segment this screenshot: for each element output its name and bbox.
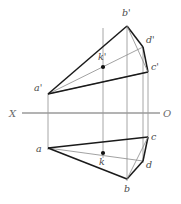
label-k-prime: k' [98,51,106,62]
edge-c-prime-a-prime [48,72,148,94]
label-k: k [99,156,105,167]
label-a-prime: a' [34,82,42,93]
edge-d-c [143,137,148,161]
label-c-prime: c' [151,61,159,72]
edge-a-b [48,148,127,179]
label-b: b [124,183,130,194]
label-a: a [36,143,42,154]
point-k-prime-dot [101,65,105,69]
label-axis-x: X [8,108,17,119]
projection-lines-group [48,26,148,181]
label-d: d [146,159,152,170]
geometry-figure: a' b' c' d' k' a b c d k X O [0,0,181,204]
edge-d-prime-c-prime [143,47,148,72]
label-c: c [151,131,157,142]
label-axis-o: O [163,108,171,119]
edge-a-k-c [48,137,148,148]
label-b-prime: b' [122,7,131,18]
edge-b-c [127,137,148,179]
label-d-prime: d' [146,34,155,45]
lower-projection-group [48,137,148,179]
vertex-labels-group: a' b' c' d' k' a b c d k [34,7,159,194]
edge-b-prime-c-prime [127,26,148,72]
edge-a-prime-b-prime [48,26,127,94]
projection-drawing: a' b' c' d' k' a b c d k X O [0,0,181,204]
edge-a-d [48,148,143,161]
point-k-dot [101,151,105,155]
